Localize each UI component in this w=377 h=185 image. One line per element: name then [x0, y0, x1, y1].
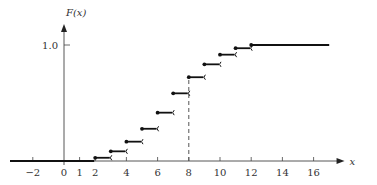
- closed-endpoint-dot: [125, 140, 129, 144]
- closed-endpoint-dot: [203, 62, 207, 66]
- x-tick-label: 2: [92, 167, 98, 178]
- open-endpoint-bracket: [157, 126, 159, 131]
- y-tick-label: 1.0: [42, 40, 58, 51]
- y-axis-label: F(x): [65, 7, 86, 18]
- x-tick-label: 14: [276, 167, 289, 178]
- axis-labels: −2012468101214161.0F(x)x: [25, 7, 355, 178]
- closed-endpoint-dot: [218, 53, 222, 57]
- open-endpoint-bracket: [220, 62, 222, 67]
- closed-endpoint-dot: [140, 127, 144, 131]
- x-axis-arrow-icon: [337, 158, 345, 164]
- x-tick-label: −2: [25, 167, 40, 178]
- x-tick-label: 6: [154, 167, 160, 178]
- x-tick-label: 1: [76, 167, 82, 178]
- closed-endpoint-dot: [156, 111, 160, 115]
- open-endpoint-bracket: [126, 149, 128, 154]
- step-segments: [10, 43, 329, 161]
- x-tick-label: 12: [245, 167, 258, 178]
- open-endpoint-bracket: [173, 110, 175, 115]
- open-endpoint-bracket: [110, 155, 112, 160]
- cdf-step-chart: −2012468101214161.0F(x)x: [0, 0, 377, 185]
- x-tick-label: 16: [307, 167, 320, 178]
- x-tick-label: 4: [123, 167, 129, 178]
- closed-endpoint-dot: [109, 149, 113, 153]
- x-tick-label: 0: [61, 167, 67, 178]
- open-endpoint-bracket: [204, 75, 206, 80]
- closed-endpoint-dot: [187, 75, 191, 79]
- closed-endpoint-dot: [249, 43, 253, 47]
- closed-endpoint-dot: [93, 156, 97, 160]
- open-endpoint-bracket: [235, 52, 237, 57]
- open-endpoint-bracket: [142, 139, 144, 144]
- closed-endpoint-dot: [234, 46, 238, 50]
- x-axis-label: x: [350, 156, 356, 167]
- x-tick-label: 8: [186, 167, 192, 178]
- closed-endpoint-dot: [171, 91, 175, 95]
- x-tick-label: 10: [214, 167, 227, 178]
- y-axis-arrow-icon: [61, 24, 67, 32]
